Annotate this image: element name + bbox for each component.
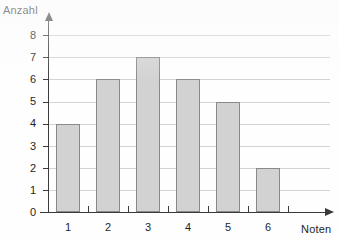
x-tick-label-3: 3 (128, 221, 168, 233)
y-tick-mark-6 (43, 79, 49, 80)
x-axis-arrow-icon (325, 208, 334, 216)
y-tick-label-8: 8 (10, 29, 36, 41)
x-tick-label-1: 1 (48, 221, 88, 233)
bar-grade-6 (256, 168, 280, 212)
x-tick-mark-0 (48, 206, 49, 213)
bar-grade-2 (96, 79, 120, 212)
y-tick-label-4: 4 (10, 117, 36, 129)
y-tick-label-0: 0 (10, 206, 36, 218)
y-tick-label-5: 5 (10, 95, 36, 107)
y-tick-mark-5 (43, 102, 49, 103)
y-tick-label-2: 2 (10, 162, 36, 174)
y-tick-mark-3 (43, 146, 49, 147)
bar-grade-4 (176, 79, 200, 212)
bar-grade-5 (216, 102, 240, 213)
x-tick-mark-6 (288, 206, 289, 213)
bar-chart-figure: Anzahl Noten 8 7 6 5 4 3 2 1 0 1 2 3 4 5… (0, 0, 339, 239)
y-tick-mark-2 (43, 168, 49, 169)
y-axis-title: Anzahl (3, 4, 38, 16)
gridline-8 (48, 35, 330, 36)
x-axis-title: Noten (301, 223, 331, 235)
x-tick-label-2: 2 (88, 221, 128, 233)
y-tick-label-1: 1 (10, 184, 36, 196)
gridline-7 (48, 57, 330, 58)
bar-grade-1 (56, 124, 80, 212)
y-tick-label-7: 7 (10, 51, 36, 63)
y-tick-mark-8 (43, 35, 49, 36)
x-tick-mark-1 (88, 206, 89, 213)
x-tick-mark-5 (248, 206, 249, 213)
y-axis-line (48, 20, 49, 213)
x-tick-label-4: 4 (168, 221, 208, 233)
x-tick-label-6: 6 (248, 221, 288, 233)
y-tick-label-3: 3 (10, 140, 36, 152)
x-tick-mark-2 (128, 206, 129, 213)
y-axis-arrow-icon (45, 12, 53, 21)
x-tick-mark-4 (208, 206, 209, 213)
x-tick-mark-3 (168, 206, 169, 213)
y-tick-mark-1 (43, 190, 49, 191)
x-tick-label-5: 5 (208, 221, 248, 233)
y-tick-label-6: 6 (10, 73, 36, 85)
x-axis-line (40, 212, 327, 213)
y-tick-mark-7 (43, 57, 49, 58)
bar-grade-3 (136, 57, 160, 212)
y-tick-mark-4 (43, 124, 49, 125)
